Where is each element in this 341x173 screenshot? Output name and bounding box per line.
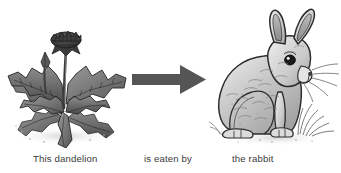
caption-row: This dandelion is eaten by the rabbit <box>0 152 341 173</box>
rabbit-illustration <box>208 4 341 150</box>
rabbit-eye <box>285 55 296 65</box>
right-arrow-icon <box>128 60 210 100</box>
rabbit-front-paw <box>271 128 294 137</box>
rabbit-hind-foot <box>223 129 253 138</box>
arrow-shape <box>132 65 206 94</box>
dandelion-illustration <box>0 8 132 148</box>
caption-relation: is eaten by <box>144 152 192 166</box>
caption-object: the rabbit <box>232 152 274 166</box>
diagram-canvas: This dandelion is eaten by the rabbit <box>0 0 341 173</box>
caption-subject: This dandelion <box>33 152 98 166</box>
dandelion-flower-head <box>51 31 81 56</box>
